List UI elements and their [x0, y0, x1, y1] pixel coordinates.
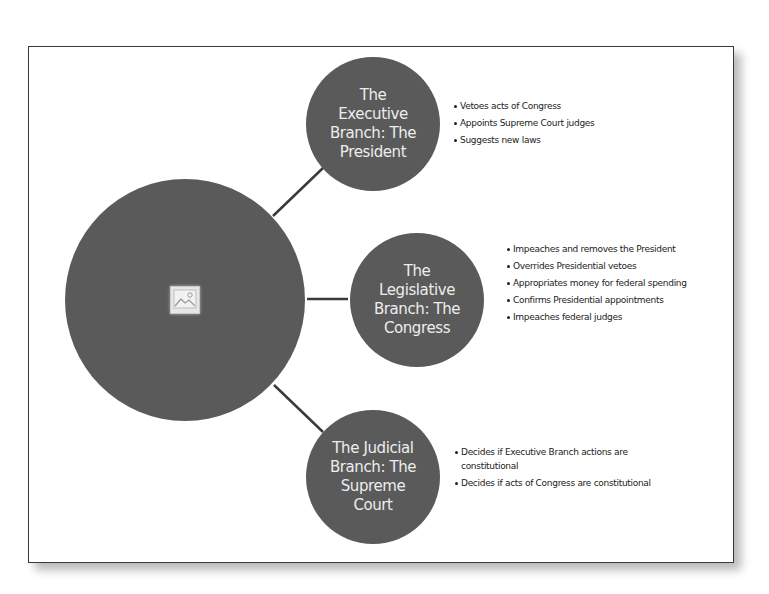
list-item: Impeaches and removes the President: [507, 242, 697, 256]
executive-powers-list: Vetoes acts of Congress Appoints Supreme…: [454, 99, 664, 150]
hub-circle: [65, 179, 305, 421]
connector-judicial: [274, 385, 323, 432]
legislative-branch-title: The Legislative Branch: The Congress: [358, 262, 476, 338]
judicial-branch-circle: The Judicial Branch: The Supreme Court: [306, 410, 440, 544]
list-item: Confirms Presidential appointments: [507, 293, 697, 307]
connector-executive: [273, 168, 323, 216]
legislative-branch-circle: The Legislative Branch: The Congress: [350, 233, 484, 367]
executive-branch-title: The Executive Branch: The President: [314, 86, 432, 162]
list-item: Vetoes acts of Congress: [454, 99, 664, 113]
executive-branch-circle: The Executive Branch: The President: [306, 57, 440, 191]
list-item: Appoints Supreme Court judges: [454, 116, 664, 130]
list-item: Decides if Executive Branch actions are …: [455, 445, 665, 473]
list-item: Overrides Presidential vetoes: [507, 259, 697, 273]
list-item: Impeaches federal judges: [507, 310, 697, 324]
list-item: Suggests new laws: [454, 133, 664, 147]
list-item: Decides if acts of Congress are constitu…: [455, 476, 665, 490]
judicial-powers-list: Decides if Executive Branch actions are …: [455, 445, 665, 493]
list-item: Appropriates money for federal spending: [507, 276, 697, 290]
legislative-powers-list: Impeaches and removes the President Over…: [507, 242, 697, 327]
image-placeholder-icon[interactable]: [170, 286, 200, 314]
judicial-branch-title: The Judicial Branch: The Supreme Court: [314, 439, 432, 515]
